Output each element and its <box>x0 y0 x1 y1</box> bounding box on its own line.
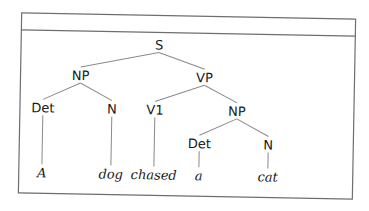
tree-node-vp: VP <box>196 70 213 85</box>
tree-edge-det1-w1 <box>42 115 43 164</box>
leaf-word-w2: dog <box>98 166 123 181</box>
tree-node-v1: V1 <box>146 102 163 117</box>
tree-edge-s-np1 <box>81 51 159 68</box>
tree-node-n2: N <box>263 137 273 152</box>
leaf-word-w1: A <box>36 165 47 180</box>
tree-edge-v1-w3 <box>154 117 155 166</box>
tree-edge-n1-w2 <box>111 117 112 166</box>
leaf-word-w4: a <box>195 168 203 183</box>
tree-node-det1: Det <box>31 100 54 115</box>
leaf-word-w5: cat <box>257 169 278 184</box>
tree-node-np1: NP <box>72 68 90 83</box>
tree-edge-vp-np2 <box>204 85 237 103</box>
tree-node-n1: N <box>107 102 117 117</box>
tree-node-np2: NP <box>228 104 246 119</box>
header-divider <box>21 30 355 36</box>
tree-edge-np1-det1 <box>43 82 80 100</box>
tree-edge-s-vp <box>159 52 205 69</box>
tree-edge-vp-v1 <box>155 84 204 102</box>
leaf-word-w3: chased <box>131 167 177 183</box>
tree-node-s: S <box>155 37 164 52</box>
tree-node-det2: Det <box>188 136 211 151</box>
tree-edge-np1-n1 <box>80 83 112 101</box>
parse-tree-diagram: SNPVPDetNV1NPDetNAdogchasedacat <box>0 0 369 211</box>
tree-labels: SNPVPDetNV1NPDetNAdogchasedacat <box>30 35 281 185</box>
parse-tree-figure: SNPVPDetNV1NPDetNAdogchasedacat <box>0 0 369 211</box>
figure-frame <box>18 13 355 199</box>
tree-edge-np2-n2 <box>236 119 268 137</box>
tree-edge-np2-det2 <box>199 118 236 136</box>
